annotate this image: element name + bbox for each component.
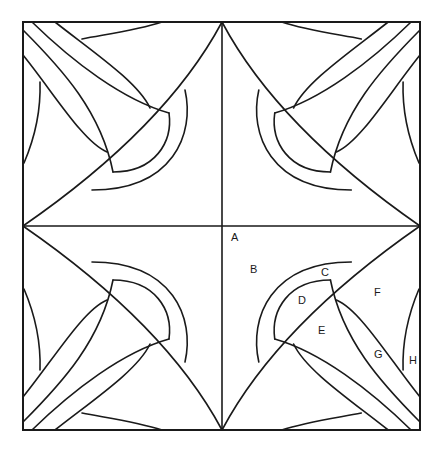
label-b: B bbox=[250, 263, 257, 275]
label-d: D bbox=[298, 294, 306, 306]
label-e: E bbox=[318, 324, 325, 336]
quadrant-top-left bbox=[23, 22, 222, 226]
label-c: C bbox=[321, 266, 329, 278]
label-f: F bbox=[374, 286, 381, 298]
label-h: H bbox=[409, 354, 417, 366]
quadrant-top-right bbox=[222, 22, 420, 226]
label-g: G bbox=[374, 348, 383, 360]
quadrant-bottom-left bbox=[23, 226, 222, 430]
quilt-block-diagram: A B C D E F G H bbox=[0, 0, 438, 449]
piece-labels: A B C D E F G H bbox=[231, 231, 417, 366]
label-a: A bbox=[231, 231, 239, 243]
